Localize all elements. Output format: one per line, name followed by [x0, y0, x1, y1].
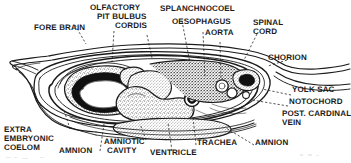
label-trachea: TRACHEA	[197, 139, 237, 148]
label-notochord: NOTOCHORD	[289, 98, 343, 107]
label-cordis: CORDIS	[115, 22, 147, 31]
embryo-section-figure: FORE BRAIN OLFACTORY PIT BULBUS CORDIS S…	[0, 0, 351, 163]
aorta-structure	[216, 80, 228, 92]
label-vein: VEIN	[282, 119, 301, 128]
label-aorta: AORTA	[205, 29, 234, 38]
spinal-cord-structure	[233, 70, 260, 91]
label-ventricle: VENTRICLE	[150, 149, 197, 158]
label-amnion-right: AMNION	[255, 139, 288, 148]
label-amnion-left: AMNION	[59, 147, 92, 156]
label-chorion: CHORION	[268, 54, 307, 63]
label-splanchnocoel: SPLANCHNOCOEL	[160, 5, 235, 14]
label-coelom: COELOM	[4, 144, 40, 153]
notochord-structure	[243, 92, 250, 99]
label-cavity: CAVITY	[107, 147, 137, 156]
post-cardinal-vein-structure	[227, 88, 237, 98]
label-fore-brain: FORE BRAIN	[34, 24, 85, 33]
label-oesophagus: OESOPHAGUS	[172, 18, 231, 27]
label-yolk-sac: YOLK SAC	[292, 86, 335, 95]
label-cord: CORD	[253, 28, 277, 37]
